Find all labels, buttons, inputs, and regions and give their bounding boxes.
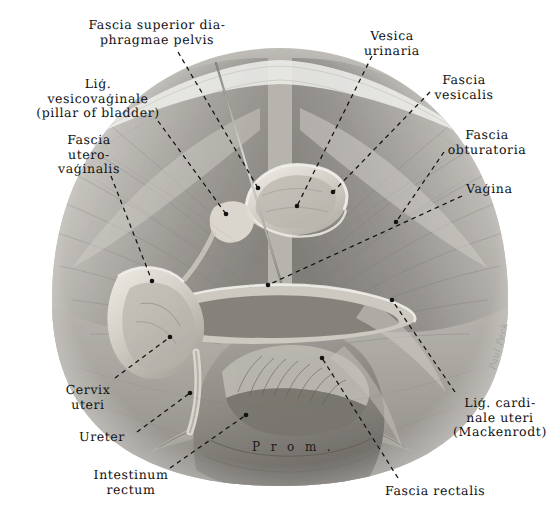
label-line: vaģinalis (34, 162, 144, 177)
leader-lig-cardinale-uteri-endpoint (390, 298, 395, 303)
label-line: Liģ. (18, 77, 178, 92)
leader-vesica-urinaria-endpoint (295, 204, 300, 209)
label-line: vesicalis (414, 88, 514, 103)
label-cervix-uteri: Cervixuteri (48, 383, 128, 412)
label-fascia-superior-diaphragmae-pelvis: Fascia superior dia-phragmae pelvis (57, 18, 257, 47)
leader-lig-vesicovaginale-endpoint (224, 212, 229, 217)
label-line: nale uteri (440, 411, 560, 426)
label-intestinum-rectum: Intestinumrectum (76, 468, 186, 497)
label-ureter: Ureter (79, 430, 159, 445)
leader-ureter-endpoint (188, 391, 193, 396)
label-line: (Mackenrodt) (440, 425, 560, 440)
label-line: uteri (48, 398, 128, 413)
label-line: Cervix (48, 383, 128, 398)
label-line: Vesica (337, 29, 447, 44)
label-line: Intestinum (76, 468, 186, 483)
label-line: vesicovaģinale (18, 92, 178, 107)
label-line: obturatoria (432, 143, 542, 158)
label-line: Ureter (79, 430, 159, 445)
label-line: Fascia (432, 128, 542, 143)
label-vesica-urinaria: Vesicaurinaria (337, 29, 447, 58)
label-lig-vesicovaginale: Liģ.vesicovaģinale(pillar of bladder) (18, 77, 178, 121)
label-fascia-vesicalis: Fasciavesicalis (414, 73, 514, 102)
leader-fascia-rectalis-endpoint (320, 356, 325, 361)
label-line: Liģ. cardi- (440, 396, 560, 411)
label-line: urinaria (337, 44, 447, 59)
label-line: Fascia (414, 73, 514, 88)
leader-fascia-obturatoria-endpoint (394, 220, 399, 225)
label-line: utero- (34, 148, 144, 163)
label-fascia-obturatoria: Fasciaobturatoria (432, 128, 542, 157)
label-fascia-uterovaginalis: Fasciautero-vaģinalis (34, 133, 144, 177)
label-lig-cardinale-uteri: Liģ. cardi-nale uteri(Mackenrodt) (440, 396, 560, 440)
leader-fascia-superior-diaphragmae-pelvis-endpoint (256, 186, 261, 191)
leader-vagina-endpoint (266, 283, 271, 288)
label-line: Fascia (34, 133, 144, 148)
label-fascia-rectalis: Fascia rectalis (385, 484, 515, 499)
label-line: phragmae pelvis (57, 33, 257, 48)
label-line: Vaģina (466, 182, 556, 197)
label-line: Fascia superior dia- (57, 18, 257, 33)
label-line: (pillar of bladder) (18, 106, 178, 121)
leader-intestinum-rectum-endpoint (244, 413, 249, 418)
anatomical-plate: Fascia superior dia-phragmae pelvisLiģ.v… (0, 0, 560, 526)
leader-cervix-uteri-endpoint (168, 335, 173, 340)
promontorium-label: P r o m . (252, 440, 334, 454)
leader-fascia-uterovaginalis-endpoint (150, 279, 155, 284)
leader-fascia-vesicalis-endpoint (331, 190, 336, 195)
label-vagina: Vaģina (466, 182, 556, 197)
label-line: Fascia rectalis (385, 484, 515, 499)
label-line: rectum (76, 483, 186, 498)
